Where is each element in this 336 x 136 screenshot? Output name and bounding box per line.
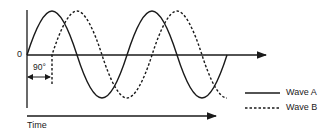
time-axis-label: Time xyxy=(27,120,47,130)
phase-diagram xyxy=(0,0,336,136)
zero-label: 0 xyxy=(17,49,22,59)
legend-wave-b-label: Wave B xyxy=(286,102,317,112)
phase-shift-label: 90° xyxy=(33,62,46,72)
legend-wave-a-label: Wave A xyxy=(286,87,317,97)
